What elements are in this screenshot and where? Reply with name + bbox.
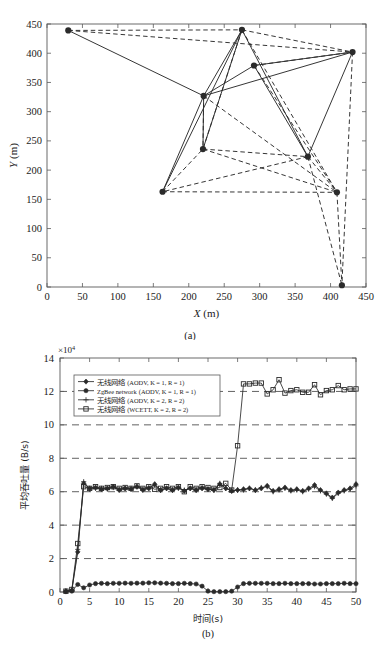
panel-a-dashed-edge (242, 30, 337, 192)
panel-a-nodes (65, 27, 355, 289)
panel-a-solid-edge (203, 30, 242, 149)
panel-b-svg: 0510152025303540455002468101214 无线网络(AOD… (0, 340, 381, 663)
panel-a-node (201, 93, 207, 99)
panel-a-svg: 0501001502002503003504004500501001502002… (0, 0, 381, 340)
panel-a-node-topology: 0501001502002503003504004500501001502002… (0, 0, 381, 340)
panel-b-y-tick-label: 10 (44, 419, 55, 430)
figure-container: 0501001502002503003504004500501001502002… (0, 0, 381, 663)
panel-b-x-tick-label: 20 (173, 596, 184, 607)
panel-b-legend-label[interactable]: ZgBee network(AODV, K = 1, R = 1) (97, 388, 196, 396)
panel-b-marker-circle (277, 582, 281, 586)
panel-b-y-tick-label: 0 (49, 587, 54, 598)
panel-b-series-line (66, 482, 356, 591)
panel-b-legend-label[interactable]: 无线网络(AODV, K = 2, R = 2) (97, 396, 184, 405)
panel-b-x-tick-label: 35 (262, 596, 273, 607)
panel-a-dashed-edge (254, 65, 337, 192)
panel-b-axis-exponent: ×104 (58, 344, 75, 355)
panel-a-x-tick-label: 400 (323, 291, 339, 302)
panel-b-series-line (66, 483, 356, 591)
panel-b-x-axis-title: 时间(s) (193, 613, 223, 624)
panel-a-node (251, 62, 257, 68)
panel-a-y-axis-title: Y (m) (7, 143, 20, 168)
panel-b-marker-circle (117, 581, 121, 585)
panel-b-y-tick-label: 14 (44, 353, 55, 364)
panel-a-y-tick-label: 100 (26, 223, 42, 234)
panel-a-y-unit: (m) (7, 143, 20, 162)
panel-a-axes (47, 24, 366, 287)
panel-a-dashed-edge (163, 157, 308, 192)
panel-a-y-tick-label: 150 (26, 194, 42, 205)
panel-b-y-tick-label: 8 (49, 453, 54, 464)
panel-b-y-tick-label: 6 (49, 486, 54, 497)
panel-a-node (159, 189, 165, 195)
panel-a-node (334, 189, 340, 195)
panel-a-solid-edge (163, 30, 242, 192)
panel-b-x-tick-label: 0 (57, 596, 62, 607)
panel-b-marker-circle (135, 581, 139, 585)
panel-a-solid-edge (204, 52, 353, 96)
panel-b-x-tick-label: 15 (144, 596, 155, 607)
panel-b-caption: (b) (202, 628, 215, 640)
panel-b-marker-circle (295, 582, 299, 586)
panel-a-dashed-edge (203, 149, 337, 192)
panel-a-x-axis-title: X (m) (193, 307, 220, 320)
panel-a-y-tick-label: 200 (26, 165, 42, 176)
panel-b-x-tick-label: 30 (232, 596, 243, 607)
panel-b-marker-circle (105, 582, 109, 586)
panel-b-marker-circle (336, 582, 340, 586)
panel-b-x-tick-label: 50 (351, 596, 362, 607)
panel-b-marker-circle (330, 582, 334, 586)
panel-a-y-tick-label: 450 (26, 19, 42, 30)
panel-b-marker-circle (99, 581, 103, 585)
panel-b-legend-label[interactable]: 无线网络(WCETT, K = 2, R = 2) (97, 405, 188, 414)
panel-b-marker-circle (301, 582, 305, 586)
panel-b-marker-circle (230, 589, 234, 593)
panel-b-x-tick-label: 10 (114, 596, 125, 607)
panel-a-x-tick-label: 200 (181, 291, 197, 302)
panel-a-plot-frame (47, 24, 366, 287)
panel-b-legend-label[interactable]: 无线网络(AODV, K = 1, R = 1) (97, 378, 184, 387)
panel-b-legend-label-params: (AODV, K = 1, R = 1) (139, 388, 196, 396)
panel-b-marker-circle (188, 582, 192, 586)
panel-b-marker-circle (324, 582, 328, 586)
panel-a-x-tick-label: 300 (252, 291, 268, 302)
panel-b-marker-circle (82, 586, 86, 590)
panel-b-marker-circle (271, 582, 275, 586)
panel-b-marker-circle (200, 584, 204, 588)
panel-a-node (239, 27, 245, 33)
panel-b-marker-circle (265, 581, 269, 585)
panel-b-marker-circle (241, 582, 245, 586)
panel-b-legend-label-name: ZgBee network (97, 388, 137, 395)
panel-a-solid-edge (242, 30, 308, 157)
panel-b-marker-circle (224, 590, 228, 594)
panel-b-y-tick-label: 2 (49, 553, 54, 564)
panel-a-dashed-edge (68, 30, 242, 31)
panel-b-y-tick-label: 12 (44, 386, 55, 397)
panel-b-marker-circle (253, 581, 257, 585)
panel-a-solid-edge (203, 96, 204, 149)
panel-b-x-tick-label: 25 (203, 596, 214, 607)
panel-b-marker-circle (88, 583, 92, 587)
panel-b-exponent-prefix: ×10 (58, 345, 73, 355)
panel-b-gridlines (60, 391, 356, 558)
panel-b-legend[interactable]: 无线网络(AODV, K = 1, R = 1)ZgBee network(AO… (74, 375, 220, 416)
panel-b-legend-label-params: (WCETT, K = 2, R = 2) (127, 406, 188, 414)
panel-a-dashed-edge (342, 52, 353, 285)
panel-a-caption: (a) (184, 330, 196, 340)
panel-a-y-tick-label: 250 (26, 135, 42, 146)
panel-a-x-tick-label: 350 (287, 291, 303, 302)
panel-b-legend-label-name: 无线网络 (97, 405, 126, 414)
panel-a-dashed-edge (203, 149, 308, 157)
panel-b-marker-circle (93, 582, 97, 586)
panel-a-solid-edge (254, 52, 353, 65)
panel-b-marker-circle (312, 582, 316, 586)
panel-a-y-tick-label: 350 (26, 77, 42, 88)
panel-a-x-tick-label: 250 (216, 291, 232, 302)
panel-b-legend-label-name: 无线网络 (97, 378, 126, 387)
panel-b-exponent-power: 4 (72, 344, 75, 351)
panel-a-node (200, 146, 206, 152)
panel-b-marker-circle (236, 585, 240, 589)
panel-b-marker-circle (348, 582, 352, 586)
panel-a-x-unit: (m) (201, 307, 220, 320)
panel-b-marker-circle (76, 582, 80, 586)
